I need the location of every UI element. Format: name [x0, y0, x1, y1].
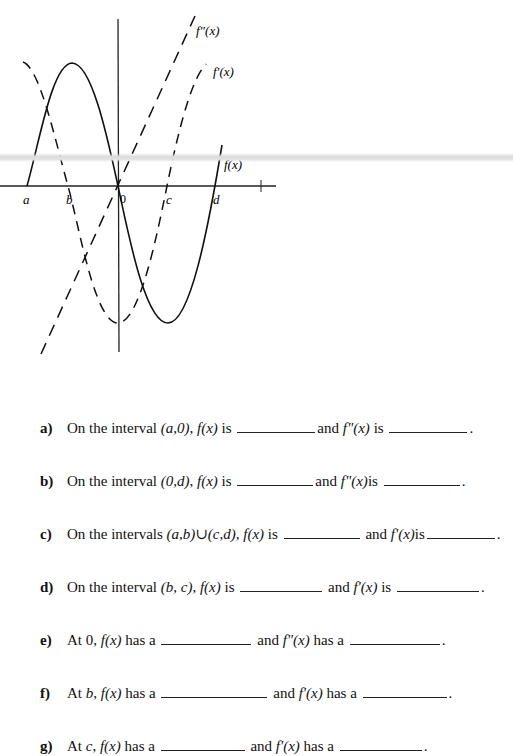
graph: f"(x) f'(x) f(x) a b 0 c d — [0, 0, 513, 370]
answer-blank[interactable] — [340, 736, 422, 751]
question-b: b)On the interval (0,d), f(x) is and f"(… — [40, 471, 465, 491]
answer-blank[interactable] — [161, 683, 267, 698]
question-label: e) — [40, 630, 67, 650]
answer-blank[interactable] — [237, 471, 313, 486]
scan-band — [0, 153, 513, 162]
answer-blank[interactable] — [161, 630, 251, 645]
answer-blank[interactable] — [384, 471, 460, 486]
question-c: c)On the intervals (a,b)∪(c,d), f(x) is … — [40, 524, 501, 544]
question-label: g) — [40, 736, 67, 756]
f-prime-curve — [23, 62, 206, 323]
answer-blank[interactable] — [284, 524, 360, 539]
answer-blank[interactable] — [350, 630, 440, 645]
question-label: d) — [40, 577, 67, 597]
tick-label-a: a — [23, 192, 30, 207]
label-fp: f'(x) — [213, 64, 234, 79]
tick-label-c: c — [166, 192, 172, 207]
question-label: b) — [40, 471, 67, 491]
answer-blank[interactable] — [427, 524, 495, 539]
tick-label-d: d — [213, 192, 220, 207]
tick-label-b: b — [66, 192, 73, 207]
question-d: d)On the interval (b, c), f(x) is and f'… — [40, 577, 485, 597]
answer-blank[interactable] — [363, 683, 447, 698]
answer-blank[interactable] — [389, 418, 467, 433]
answer-blank[interactable] — [240, 577, 322, 592]
label-fpp: f"(x) — [196, 23, 220, 38]
question-label: a) — [40, 418, 67, 438]
answer-blank[interactable] — [161, 736, 245, 751]
question-label: f) — [40, 683, 67, 703]
answer-blank[interactable] — [237, 418, 315, 433]
question-e: e)At 0, f(x) has a and f"(x) has a . — [40, 630, 445, 650]
question-g: g)At c, f(x) has a and f'(x) has a . — [40, 736, 428, 756]
question-f: f)At b, f(x) has a and f'(x) has a . — [40, 683, 452, 703]
tick-label-zero: 0 — [120, 192, 126, 206]
function-graph: f"(x) f'(x) f(x) a b 0 c d — [0, 0, 513, 370]
answer-blank[interactable] — [397, 577, 479, 592]
question-a: a)On the interval (a,0), f(x) is and f"(… — [40, 418, 473, 438]
question-label: c) — [40, 524, 67, 544]
